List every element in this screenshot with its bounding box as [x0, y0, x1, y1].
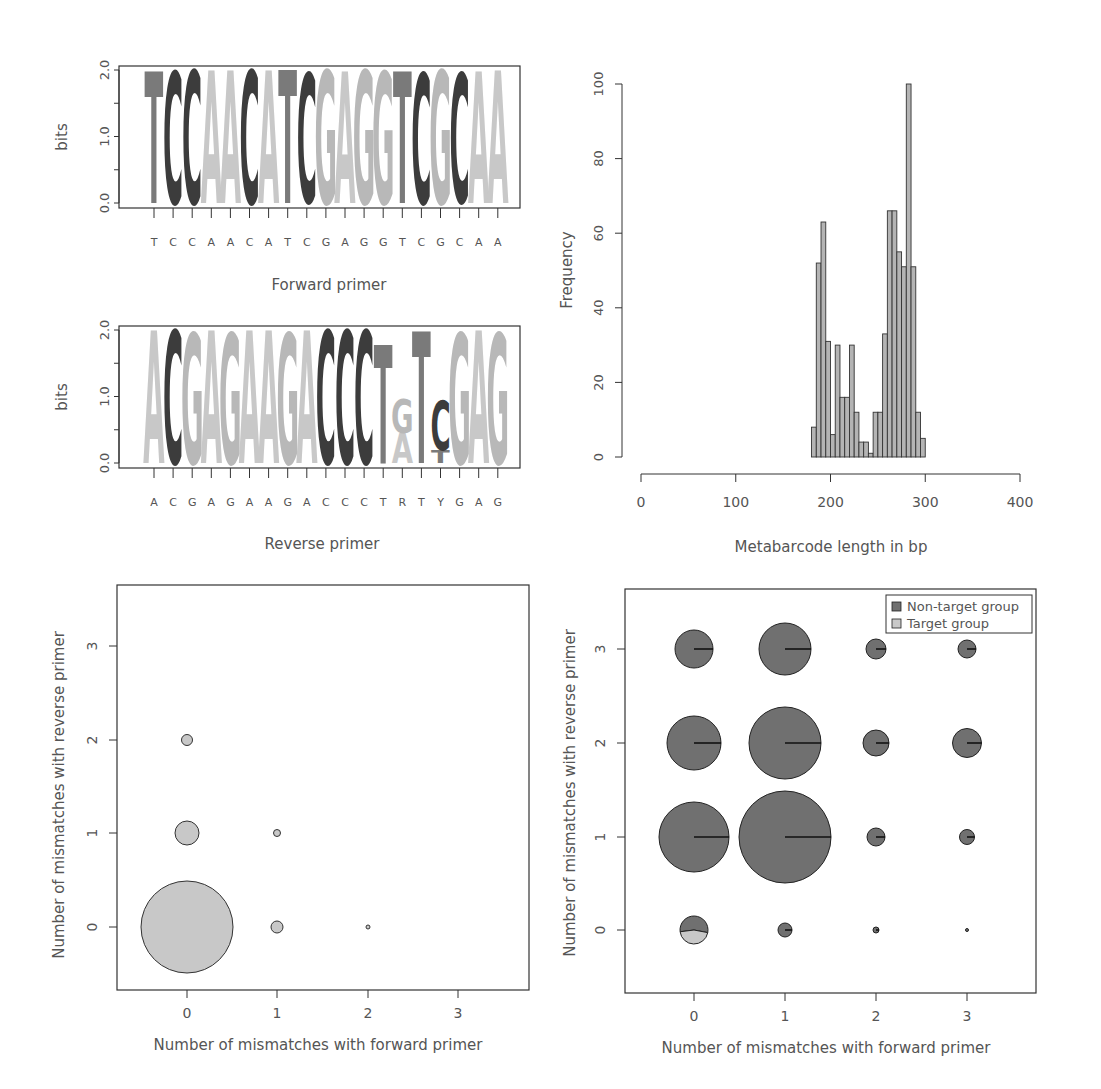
bubble-xlabel: Number of mismatches with forward primer [154, 1036, 484, 1054]
histogram-bar [864, 442, 869, 457]
svg-text:2: 2 [364, 1005, 373, 1021]
mismatch-pie-chart: 01230123 [592, 589, 1036, 1024]
svg-text:400: 400 [1007, 494, 1034, 510]
svg-text:3: 3 [84, 642, 100, 651]
logo-letter-G: G [372, 35, 395, 245]
pie-point [953, 729, 982, 758]
svg-text:0: 0 [690, 1008, 699, 1024]
histogram-bar [835, 345, 840, 457]
svg-text:2: 2 [592, 739, 608, 748]
svg-text:60: 60 [591, 225, 606, 242]
svg-text:2: 2 [84, 736, 100, 745]
svg-text:2.0: 2.0 [97, 320, 112, 341]
bubble-point [271, 921, 283, 933]
pie-point [667, 716, 721, 770]
histogram-bar [897, 252, 902, 457]
pie-point [675, 630, 713, 668]
logo-letter-T: T [278, 34, 297, 247]
logo-letter-A: A [220, 34, 241, 247]
legend-label-nontarget: Non-target group [907, 599, 1019, 614]
bubble-ylabel: Number of mismatches with reverse primer [50, 630, 68, 959]
logo-letter-C: C [239, 34, 259, 247]
svg-text:0: 0 [637, 494, 646, 510]
histogram-bar [840, 397, 845, 457]
histogram-bar [878, 412, 883, 457]
svg-text:1.0: 1.0 [97, 126, 112, 147]
svg-text:40: 40 [591, 300, 606, 317]
bubble-point [141, 881, 233, 973]
histogram-bar [845, 397, 850, 457]
legend-label-target: Target group [906, 616, 989, 631]
histogram-bar [911, 267, 916, 457]
figure-canvas: 0.01.02.0TTCCCCAAAACCAATTCCGGAAGGGGTTCCG… [0, 0, 1101, 1089]
histogram-bar [812, 427, 817, 457]
bubble-point [182, 735, 193, 746]
pie-xlabel: Number of mismatches with forward primer [662, 1039, 992, 1057]
pie-point [659, 802, 729, 872]
logo-letter-C: C [182, 34, 202, 247]
pie-point [966, 929, 969, 932]
pie-point [867, 828, 885, 846]
logo-letter-C: C [449, 40, 469, 245]
pie-point [960, 830, 975, 845]
svg-text:0: 0 [183, 1005, 192, 1021]
logo-letter-G: G [487, 298, 510, 505]
svg-text:100: 100 [722, 494, 749, 510]
svg-text:Y: Y [436, 496, 444, 509]
pie-legend: Non-target group Target group [886, 595, 1032, 633]
svg-text:1: 1 [781, 1008, 790, 1024]
pie-point [759, 623, 811, 675]
svg-text:2.0: 2.0 [97, 60, 112, 81]
svg-text:3: 3 [454, 1005, 463, 1021]
pie-point [749, 707, 821, 779]
svg-text:R: R [398, 496, 406, 509]
mismatch-bubble-chart: 01230123 [84, 585, 529, 1021]
logo-letter-C: C [163, 35, 183, 245]
histogram-bar [921, 438, 926, 457]
histogram-bar [859, 442, 864, 457]
histogram-bar [902, 267, 907, 457]
svg-text:80: 80 [591, 150, 606, 167]
logo-letter-T: T [393, 35, 412, 245]
logo-letter-T: T [145, 35, 164, 245]
bubble-point [274, 830, 281, 837]
svg-text:1: 1 [592, 833, 608, 842]
histogram-bar [816, 263, 821, 457]
pie-point [680, 916, 708, 944]
pie-point [739, 791, 831, 883]
histogram-bar [906, 84, 911, 457]
svg-text:20: 20 [591, 374, 606, 391]
pie-point [866, 639, 886, 659]
forward-xlabel: Forward primer [272, 276, 388, 294]
svg-text:200: 200 [817, 494, 844, 510]
length-histogram: 0204060801000100200300400 [591, 72, 1033, 510]
svg-text:100: 100 [591, 72, 606, 97]
legend-swatch-nontarget [892, 602, 901, 611]
histogram-ylabel: Frequency [558, 231, 576, 309]
pie-point [873, 927, 879, 933]
histogram-bar [916, 412, 921, 457]
forward-primer-logo: 0.01.02.0TTCCCCAAAACCAATTCCGGAAGGGGTTCCG… [97, 34, 520, 249]
reverse-xlabel: Reverse primer [265, 535, 381, 553]
reverse-ylabel: bits [53, 383, 71, 411]
histogram-bar [821, 222, 826, 457]
forward-ylabel: bits [53, 123, 71, 151]
svg-text:2: 2 [872, 1008, 881, 1024]
logo-letter-G: G [429, 34, 452, 247]
histogram-bar [854, 412, 859, 457]
bubble-point [175, 821, 199, 845]
legend-swatch-target [892, 619, 901, 628]
histogram-bar [849, 345, 854, 457]
histogram-bar [887, 211, 892, 457]
pie-point [863, 730, 889, 756]
svg-text:3: 3 [963, 1008, 972, 1024]
svg-text:300: 300 [912, 494, 939, 510]
svg-text:0: 0 [592, 926, 608, 935]
pie-point [778, 923, 792, 937]
logo-letter-A: A [143, 294, 164, 507]
logo-letter-C: C [335, 294, 355, 507]
pie-ylabel: Number of mismatches with reverse primer [561, 628, 579, 957]
logo-letter-A: A [258, 34, 279, 247]
histogram-bar [883, 334, 888, 457]
histogram-bar [831, 435, 836, 457]
